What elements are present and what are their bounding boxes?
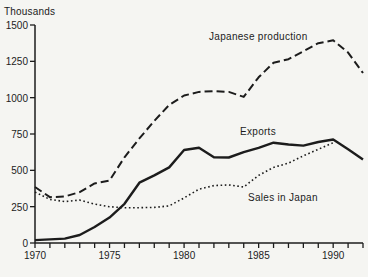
y-tick-label: 250 bbox=[2, 202, 28, 213]
x-tick-label: 1985 bbox=[244, 250, 274, 261]
series-label-japanese-production: Japanese production bbox=[209, 31, 308, 42]
japanese-production-line bbox=[35, 40, 363, 197]
y-tick-label: 500 bbox=[2, 165, 28, 176]
x-tick-label: 1980 bbox=[169, 250, 199, 261]
y-tick-label: 750 bbox=[2, 129, 28, 140]
x-tick-label: 1970 bbox=[20, 250, 50, 261]
y-tick-label: 1500 bbox=[2, 20, 28, 31]
x-tick-label: 1990 bbox=[318, 250, 348, 261]
line-chart-figure: Thousands Japanese production Exports Sa… bbox=[0, 0, 368, 277]
x-tick-label: 1975 bbox=[95, 250, 125, 261]
series-label-exports: Exports bbox=[240, 126, 276, 137]
y-tick-label: 0 bbox=[2, 238, 28, 249]
series-label-sales-in-japan: Sales in Japan bbox=[248, 192, 318, 203]
chart-plot-area bbox=[0, 0, 368, 277]
y-axis-title: Thousands bbox=[4, 6, 55, 17]
y-tick-label: 1000 bbox=[2, 93, 28, 104]
y-tick-label: 1250 bbox=[2, 56, 28, 67]
